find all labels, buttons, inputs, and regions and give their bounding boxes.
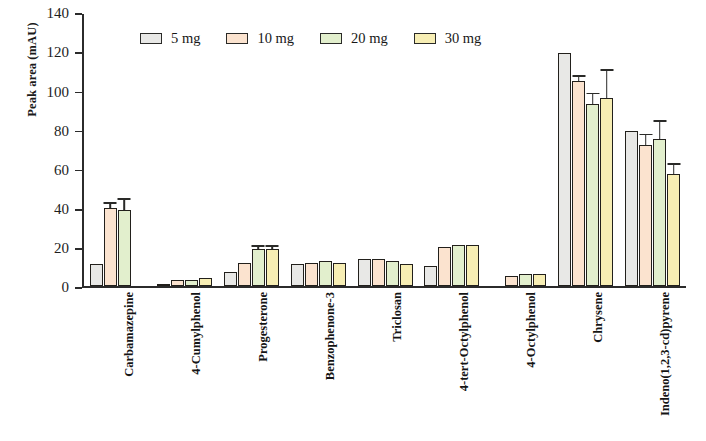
bar — [625, 131, 638, 286]
bar-groups — [84, 14, 686, 286]
x-category-label: Carbamazepine — [122, 292, 137, 377]
bar-slot — [238, 14, 251, 286]
x-category: Carbamazepine — [84, 292, 151, 441]
error-bar-cap — [586, 93, 599, 95]
error-bar — [257, 247, 259, 249]
y-tick: 60 — [75, 170, 82, 172]
error-bar — [124, 200, 126, 210]
x-category-label: Chrysene — [591, 292, 606, 343]
bar — [386, 261, 399, 286]
bar-slot — [438, 14, 451, 286]
x-category-label: Triclosan — [390, 292, 405, 342]
bar-slot — [533, 14, 546, 286]
bar-group — [352, 14, 419, 286]
bar-slot — [519, 14, 532, 286]
bar — [505, 276, 518, 286]
y-tick: 100 — [75, 92, 82, 94]
error-bar-cap — [266, 245, 279, 247]
bar — [600, 98, 613, 286]
bar — [438, 247, 451, 286]
y-tick-label: 40 — [54, 199, 69, 219]
x-category-label: 4-Octylphenol — [524, 292, 539, 368]
bar-group — [285, 14, 352, 286]
error-bar — [673, 165, 675, 175]
bar-slot — [505, 14, 518, 286]
bar — [558, 53, 571, 286]
bar-slot — [572, 14, 585, 286]
bar-slot — [104, 14, 117, 286]
y-axis-title: Peak area (mAU) — [25, 0, 40, 150]
bar-slot — [358, 14, 371, 286]
plot-area: 020406080100120140 — [82, 14, 686, 288]
x-category: Chrysene — [552, 292, 619, 441]
x-category: Indeno(1,2,3-cd)pyrene — [619, 292, 686, 441]
bar-slot — [400, 14, 413, 286]
y-tick: 80 — [75, 131, 82, 133]
bar-slot — [199, 14, 212, 286]
bar — [466, 245, 479, 286]
error-bar-cap — [118, 198, 131, 200]
bar — [452, 245, 465, 286]
bar — [400, 264, 413, 286]
y-tick-label: 140 — [47, 3, 70, 23]
error-bar — [645, 135, 647, 145]
bar-group — [151, 14, 218, 286]
error-bar-cap — [639, 134, 652, 136]
bar-slot — [586, 14, 599, 286]
bar-slot — [333, 14, 346, 286]
bar-slot — [291, 14, 304, 286]
error-bar — [606, 71, 608, 98]
x-category: 4-Octylphenol — [485, 292, 552, 441]
bar-slot — [667, 14, 680, 286]
error-bar-cap — [104, 202, 117, 204]
bar-slot — [386, 14, 399, 286]
bar — [291, 264, 304, 286]
y-tick: 120 — [75, 52, 82, 54]
error-bar-cap — [252, 245, 265, 247]
bar-group — [418, 14, 485, 286]
bar-slot — [372, 14, 385, 286]
bar-slot — [424, 14, 437, 286]
bar-slot — [305, 14, 318, 286]
bar — [372, 259, 385, 286]
bar — [533, 274, 546, 286]
bar-slot — [491, 14, 504, 286]
bar-group — [619, 14, 686, 286]
y-tick: 0 — [75, 287, 82, 289]
x-category: 4-tert-Octylphenol — [418, 292, 485, 441]
bar — [639, 145, 652, 286]
bar — [519, 274, 532, 286]
bar — [185, 280, 198, 286]
x-category: Triclosan — [352, 292, 419, 441]
bar-slot — [625, 14, 638, 286]
x-category: Progesterone — [218, 292, 285, 441]
bar-group — [218, 14, 285, 286]
error-bar-cap — [653, 120, 666, 122]
bar-slot — [319, 14, 332, 286]
error-bar-cap — [600, 69, 613, 71]
y-tick-label: 80 — [54, 121, 69, 141]
bar-slot — [558, 14, 571, 286]
bar-slot — [90, 14, 103, 286]
bar-slot — [653, 14, 666, 286]
error-bar-cap — [572, 75, 585, 77]
bar-slot — [639, 14, 652, 286]
bar — [667, 174, 680, 286]
bar — [572, 81, 585, 287]
bar-chart-figure: Peak area (mAU) 5 mg10 mg20 mg30 mg 0204… — [0, 0, 706, 441]
x-category-label: 4-Cumylphenol — [189, 292, 204, 375]
bar-slot — [157, 14, 170, 286]
bar — [90, 264, 103, 286]
bar — [305, 263, 318, 286]
bar-group — [552, 14, 619, 286]
bar-group — [485, 14, 552, 286]
y-tick: 40 — [75, 209, 82, 211]
y-tick-label: 120 — [47, 42, 70, 62]
bar-slot — [132, 14, 145, 286]
bar — [266, 249, 279, 286]
bar-slot — [224, 14, 237, 286]
bar — [199, 278, 212, 286]
bar — [238, 263, 251, 286]
bar — [424, 266, 437, 286]
bar — [653, 139, 666, 286]
